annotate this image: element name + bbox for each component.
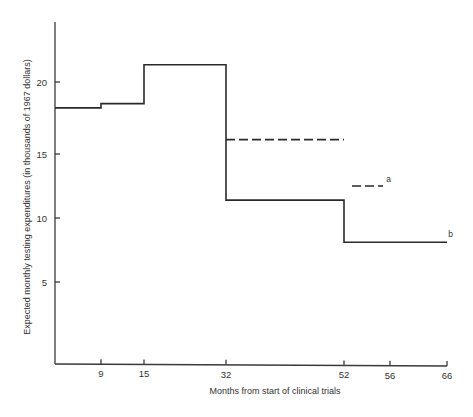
- annotation-a: a: [386, 174, 391, 184]
- series-b-line: [55, 65, 447, 243]
- x-tick-label: 56: [385, 370, 396, 381]
- axes: [55, 22, 447, 366]
- x-axis-label: Months from start of clinical trials: [209, 386, 341, 396]
- annotation-b: b: [448, 229, 453, 239]
- x-axis-line: [55, 364, 447, 366]
- x-tick-label: 9: [98, 368, 103, 379]
- annotations: ab: [386, 174, 453, 239]
- data-series: [55, 65, 447, 243]
- x-tick-label: 52: [339, 369, 350, 380]
- x-tick-label: 66: [442, 370, 453, 381]
- y-tick-label: 15: [36, 149, 47, 160]
- x-tick-label: 32: [221, 369, 232, 380]
- x-axis-ticks: 91532525666: [98, 359, 452, 381]
- y-tick-label: 5: [42, 277, 47, 288]
- step-chart: 5101520 91532525666 ab Months from start…: [0, 0, 473, 417]
- y-axis-label: Expected monthly testing expenditures (i…: [22, 59, 32, 335]
- x-tick-label: 15: [139, 368, 150, 379]
- y-tick-label: 10: [36, 213, 47, 224]
- y-tick-label: 20: [36, 77, 47, 88]
